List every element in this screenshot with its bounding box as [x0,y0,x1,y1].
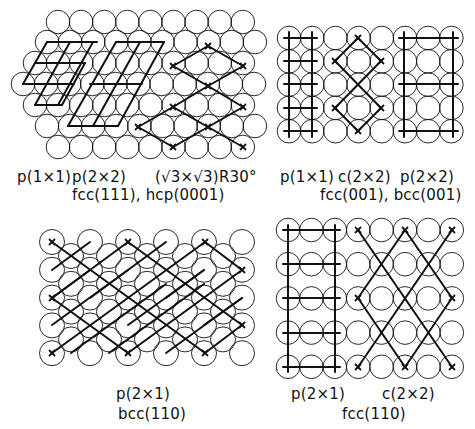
label-fcc110-c2x2: c(2×2) [382,387,435,402]
atom-circle [35,114,59,138]
c2x2-cell-x-mark-icon [355,364,361,370]
atom-circle [440,252,464,276]
p2x1-cell-line [52,270,90,298]
p2x2-cell [399,32,458,137]
p2x1-cell-x-mark-icon [202,350,208,356]
p2x1-cell-x-mark-icon [202,239,208,245]
c2x2-cell-x-mark-icon [332,58,338,64]
label-fcc110-p2x1: p(2×1) [291,387,345,402]
atom-circle [440,321,464,345]
p2x1-cell-x-mark-icon [239,322,245,328]
panel-fcc110 [276,218,463,378]
label-hex-p2x2: p(2×2) [72,170,126,185]
sqrt3-cell [135,43,246,150]
sqrt3-cell-x-mark-icon [170,144,176,150]
sqrt3-cell-line [173,46,208,66]
atom-circle [370,119,394,143]
atom-circle [370,218,394,242]
atom-circle [230,341,255,366]
c2x2-cell-x-mark-icon [355,227,361,233]
atom-circle [346,321,370,345]
p2x1-cell-x-mark-icon [239,267,245,273]
label-square-p1x1: p(1×1) [280,170,334,185]
atom-circle [243,30,267,54]
sqrt3-cell-x-mark-icon [205,124,211,130]
atom-circle [46,135,70,159]
c2x2-cell-x-mark-icon [449,227,455,233]
sqrt3-cell-x-mark-icon [135,124,141,130]
label-hex-p1x1: p(1×1) [17,170,71,185]
atom-circle [416,96,440,120]
label-square-c2x2: c(2×2) [338,170,391,185]
label-square-surface: fcc(001), bcc(001) [320,188,462,203]
label-hex-surface: fcc(111), hcp(0001) [72,188,225,203]
c2x2-cell-x-mark-icon [355,35,361,41]
p2x1-cell-x-mark-icon [49,350,55,356]
atom-circle [220,30,244,54]
sqrt3-cell-x-mark-icon [170,104,176,110]
atom-circle [174,30,198,54]
atom-circle [347,96,371,120]
atom-circle [417,355,441,379]
label-hex-sqrt3-r30: (√3×√3)R30° [155,170,257,185]
c2x2-cell-x-mark-icon [449,295,455,301]
atom-circle [440,96,464,120]
sqrt3-cell-x-mark-icon [240,144,246,150]
atom-circle [243,114,267,138]
sqrt3-cell-line [208,46,243,66]
label-fcc110-surface: fcc(110) [342,407,406,422]
sqrt3-cell-line [208,86,243,107]
p2x1-cell-line [71,284,166,353]
p2x1-cell-line [90,242,166,298]
sqrt3-cell-x-mark-icon [205,43,211,49]
c2x2-cell-x-mark-icon [355,295,361,301]
panel-bcc110 [40,230,255,366]
p2x1-cell-x-mark-icon [125,350,131,356]
atom-circle [185,51,209,75]
atom-circle [208,93,232,117]
atom-circle [231,93,255,117]
c2x2-cell-x-mark-icon [449,364,455,370]
atom-circle [230,230,255,255]
p2x1-cell-x-mark-icon [125,239,131,245]
p2x1-cell-x-mark-icon [49,239,55,245]
label-square-p2x2: p(2×2) [400,170,454,185]
atom-circle [116,93,140,117]
p2x1-cell [283,225,340,372]
sqrt3-cell-line [173,66,208,86]
atom-circle [324,73,348,97]
atom-circle [208,51,232,75]
sqrt3-cell-x-mark-icon [240,104,246,110]
atom-circle [150,72,174,96]
sqrt3-cell-x-mark-icon [170,63,176,69]
atom-circle [162,93,186,117]
atom-circle [347,50,371,74]
atom-circle [440,50,464,74]
atom-circle [346,252,370,276]
panel-fcc111-hcp0001 [11,10,266,159]
atom-circle [416,50,440,74]
atom-circle [116,135,140,159]
atom-circle [324,119,348,143]
atom-circle [417,287,441,311]
atom-circle [393,252,417,276]
atom-circle [219,72,243,96]
atom-circle [370,287,394,311]
c2x2-cell-x-mark-icon [402,227,408,233]
p2x1-cell [49,239,245,356]
sqrt3-cell-x-mark-icon [240,63,246,69]
sqrt3-cell-line [138,107,173,127]
sqrt3-cell-line [173,86,208,107]
atom-circle [139,51,163,75]
atom-circle [69,135,93,159]
sqrt3-cell-line [208,107,243,127]
c2x2-cell-x-mark-icon [378,105,384,111]
atom-circle [417,218,441,242]
atom-circle [324,26,348,50]
c2x2-cell-x-mark-icon [355,128,361,134]
atom-circle [139,93,163,117]
atom-circle [370,73,394,97]
p2x1-cell-x-mark-icon [49,295,55,301]
atom-circle [370,26,394,50]
label-bcc110-surface: bcc(110) [118,407,186,422]
